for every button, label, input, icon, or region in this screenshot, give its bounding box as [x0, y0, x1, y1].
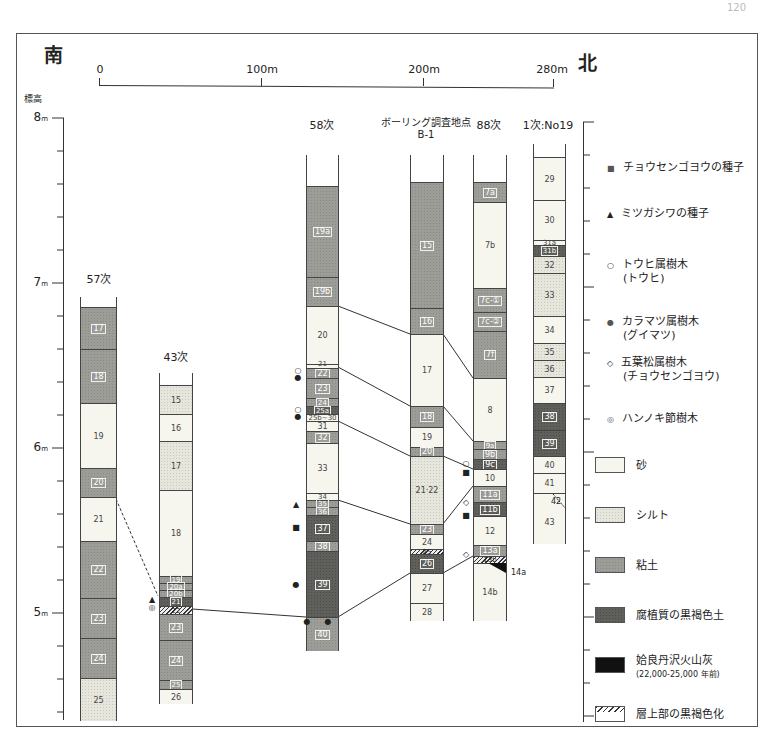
- layer: 12: [474, 516, 506, 545]
- column-58: 19a 19b 20 21 22 23 24 25a 25b~30 31 32 …: [306, 155, 339, 651]
- layer: 23: [160, 614, 192, 640]
- layer: 15: [411, 182, 443, 308]
- column-boring-b1: 15 16 17 18 19 20 21·22 23 24 25 26 27 2…: [410, 155, 444, 621]
- layer: 21·22: [411, 456, 443, 524]
- layer: 28: [411, 603, 443, 621]
- legend-label-clay: 粘土: [636, 559, 658, 572]
- layer: 26: [160, 689, 192, 704]
- diamond-marker-icon: ◇: [463, 499, 469, 507]
- layer: 25a: [307, 406, 338, 414]
- filled-circle-marker-icon: ●: [304, 618, 311, 626]
- layer: 24: [81, 638, 116, 678]
- layer: 18: [81, 349, 116, 403]
- filled-circle-icon: ●: [607, 318, 614, 327]
- layer: 33: [307, 443, 338, 493]
- layer: 25: [160, 680, 192, 689]
- layer: 18: [160, 490, 192, 576]
- layer: 29: [534, 157, 565, 200]
- legend-item-alnus: ◎ハンノキ節樹木: [607, 412, 698, 426]
- swatch-darkened-top: [595, 706, 625, 722]
- layer: 24: [411, 534, 443, 549]
- layer: 7b: [474, 202, 506, 288]
- layer: 8: [474, 378, 506, 441]
- layer: 40: [534, 456, 565, 473]
- layer: 37: [534, 377, 565, 403]
- legend-label-ash: 姶良丹沢火山灰(22,000-25,000 年前): [636, 654, 720, 681]
- layer: 39: [307, 551, 338, 617]
- layer-label-14a: 14a: [511, 568, 526, 577]
- open-circle-marker-icon: ○: [463, 460, 470, 468]
- layer: 21: [160, 597, 192, 606]
- layer: 37: [307, 515, 338, 541]
- square-marker-icon: ■: [462, 512, 470, 520]
- legend-label-darkened-top: 層上部の黒褐色化: [636, 708, 724, 721]
- layer: 22: [160, 606, 192, 614]
- layer: 9a: [474, 441, 506, 449]
- layer: 7f: [474, 331, 506, 378]
- swatch-humus: [595, 607, 625, 623]
- column-57: 17 18 19 20 21 22 23 24 25: [80, 297, 117, 721]
- layer: 11b: [474, 502, 506, 516]
- layer: 22: [307, 368, 338, 378]
- legend-item-korean-pine-seed: ■チョウセンゴヨウの種子: [607, 161, 744, 175]
- layer: 20: [81, 468, 116, 497]
- layer: 7c-②: [474, 312, 506, 331]
- layer: 33: [534, 273, 565, 316]
- column-1-no19: 29 30 31a 31b 32 33 34 35 36 37 38 39 40…: [533, 144, 566, 544]
- layer: 31b: [534, 245, 565, 256]
- square-marker-icon: ■: [292, 524, 300, 532]
- square-marker-icon: ■: [462, 469, 470, 477]
- triangle-icon: ▲: [607, 210, 613, 219]
- layer: 10: [474, 469, 506, 486]
- layer: 16: [411, 308, 443, 334]
- column-title-boring-b1: ボーリング調査地点B-1: [381, 117, 471, 141]
- column-title-1-no19: 1次:No19: [523, 120, 574, 132]
- layer: 20: [307, 306, 338, 364]
- column-title-58: 58次: [310, 120, 335, 132]
- layer: 7c-①: [474, 288, 506, 312]
- column-title-57: 57次: [87, 274, 112, 286]
- swatch-sand: [595, 457, 625, 473]
- layer: 25: [81, 678, 116, 721]
- layer: 22: [81, 541, 116, 598]
- legend-label-silt: シルト: [636, 509, 669, 522]
- layer: 17: [411, 334, 443, 406]
- column-43: 15 16 17 18 19 20a 20b 21 22 23 24 25 26: [159, 373, 193, 704]
- column-88: 7a 7b 7c-① 7c-② 7f 8 9a 9b 9c 10 11a 11b…: [473, 155, 507, 621]
- square-icon: ■: [607, 164, 615, 173]
- layer: 24: [160, 640, 192, 680]
- swatch-clay: [595, 557, 625, 573]
- layer: 39: [534, 430, 565, 456]
- layer: 16: [160, 414, 192, 441]
- layer: 20b: [160, 590, 192, 597]
- layer: 21: [81, 497, 116, 541]
- layer: 35: [534, 343, 565, 360]
- layer: 13a: [474, 545, 506, 556]
- layer: 20: [411, 447, 443, 456]
- layer: 41: [534, 473, 565, 493]
- column-title-43: 43次: [164, 352, 189, 364]
- swatch-ash: [595, 657, 625, 673]
- layer: 19a: [307, 186, 338, 277]
- layer: 34: [534, 316, 565, 343]
- layer: 26: [411, 554, 443, 573]
- layer: 27: [411, 573, 443, 603]
- layer: 23: [307, 378, 338, 398]
- column-title-88: 88次: [477, 120, 502, 132]
- filled-circle-marker-icon: ●: [293, 581, 300, 589]
- layer: 19: [81, 403, 116, 468]
- layer: 38: [534, 403, 565, 430]
- swatch-silt: [595, 507, 625, 523]
- open-circle-icon: ○: [607, 261, 614, 270]
- layer: 40: [307, 617, 338, 651]
- layer: 19b: [307, 277, 338, 306]
- layer: 9b: [474, 449, 506, 459]
- legend-label-humus: 腐植質の黒褐色土: [636, 609, 724, 622]
- legend-item-five-needle-pine: ◇五葉松属樹木(チョウセンゴヨウ): [607, 356, 720, 383]
- layer: 38: [307, 541, 338, 551]
- layer-42-boundary: [533, 493, 567, 513]
- filled-circle-marker-icon: ●: [295, 413, 302, 421]
- double-circle-icon: ◎: [607, 415, 614, 424]
- diamond-icon: ◇: [607, 359, 613, 368]
- layer: 17: [160, 441, 192, 490]
